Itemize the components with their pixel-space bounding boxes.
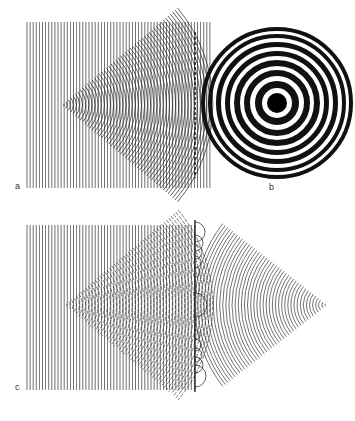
wave-optics-figure: a b c — [0, 0, 355, 421]
panel-label-c: c — [15, 382, 20, 392]
panel-label-a: a — [15, 181, 20, 191]
panel-label-b: b — [269, 182, 274, 192]
panel-b-zone-plate — [203, 29, 351, 177]
panel-a-plane-and-spherical-waves — [27, 8, 213, 202]
panel-c-zone-plate-focusing — [27, 210, 325, 400]
